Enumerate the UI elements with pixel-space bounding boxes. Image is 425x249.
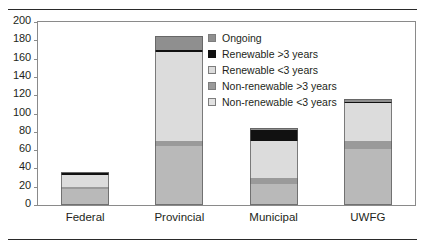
bar-segment xyxy=(250,141,298,178)
x-axis-label: UWFG xyxy=(321,210,415,224)
bar-segment xyxy=(61,189,109,205)
y-axis-tick-label: 160 xyxy=(13,52,31,63)
x-axis-labels: FederalProvincialMunicipalUWFG xyxy=(38,210,415,230)
bar-segment xyxy=(344,149,392,205)
y-axis-tick-label: 0 xyxy=(25,198,31,209)
legend-item[interactable]: Non-renewable >3 years xyxy=(208,79,358,94)
legend-item[interactable]: Renewable >3 years xyxy=(208,47,358,62)
legend-item[interactable]: Non-renewable <3 years xyxy=(208,95,358,110)
y-axis-tick-label: 140 xyxy=(13,70,31,81)
legend-item[interactable]: Renewable <3 years xyxy=(208,63,358,78)
legend-swatch-icon xyxy=(208,98,216,106)
legend-swatch-icon xyxy=(208,50,216,58)
x-axis-label: Municipal xyxy=(227,210,321,224)
y-axis-tick-label: 100 xyxy=(13,107,31,118)
legend-swatch-icon xyxy=(208,34,216,42)
bar-federal[interactable] xyxy=(61,172,109,205)
legend-swatch-icon xyxy=(208,66,216,74)
y-axis-tick-label: 200 xyxy=(13,15,31,26)
legend-item-label: Non-renewable <3 years xyxy=(222,96,337,108)
y-axis-tick-label: 20 xyxy=(19,180,31,191)
bar-segment xyxy=(155,146,203,205)
legend-swatch-icon xyxy=(208,82,216,90)
top-rule xyxy=(8,9,417,10)
y-axis-tick-label: 60 xyxy=(19,143,31,154)
bar-segment xyxy=(344,141,392,149)
legend-item-label: Non-renewable >3 years xyxy=(222,80,337,92)
legend-item-label: Renewable >3 years xyxy=(222,48,318,60)
bar-segment xyxy=(155,36,203,51)
bar-segment xyxy=(155,52,203,141)
x-axis-label: Provincial xyxy=(132,210,226,224)
bar-segment xyxy=(250,184,298,205)
x-axis-label: Federal xyxy=(38,210,132,224)
y-axis: 020406080100120140160180200 xyxy=(0,21,38,206)
y-axis-tick-label: 120 xyxy=(13,88,31,99)
bar-municipal[interactable] xyxy=(250,128,298,205)
bottom-rule xyxy=(8,239,417,240)
bar-provincial[interactable] xyxy=(155,36,203,205)
y-axis-tick-label: 180 xyxy=(13,33,31,44)
legend-item-label: Renewable <3 years xyxy=(222,64,318,76)
bar-uwfg[interactable] xyxy=(344,99,392,205)
bar-segment xyxy=(250,130,298,141)
chart-legend: OngoingRenewable >3 yearsRenewable <3 ye… xyxy=(208,31,358,111)
legend-item-label: Ongoing xyxy=(222,32,262,44)
bar-segment xyxy=(61,175,109,187)
legend-item[interactable]: Ongoing xyxy=(208,31,358,46)
figure: 020406080100120140160180200 FederalProvi… xyxy=(0,0,425,249)
y-axis-tick-label: 80 xyxy=(19,125,31,136)
y-axis-tick-label: 40 xyxy=(19,161,31,172)
